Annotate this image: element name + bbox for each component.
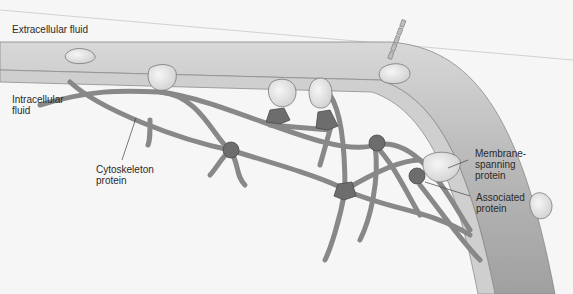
label-associated-protein: Associated protein — [476, 192, 525, 214]
label-cytoskeleton-protein: Cytoskeleton protein — [96, 164, 154, 186]
label-extracellular-fluid: Extracellular fluid — [12, 24, 88, 35]
cell-membrane-diagram: Extracellular fluid Intracellular fluid … — [0, 0, 573, 294]
diagram-canvas — [0, 0, 573, 294]
label-intracellular-fluid: Intracellular fluid — [12, 94, 64, 116]
label-membrane-spanning-protein: Membrane- spanning protein — [475, 148, 526, 181]
